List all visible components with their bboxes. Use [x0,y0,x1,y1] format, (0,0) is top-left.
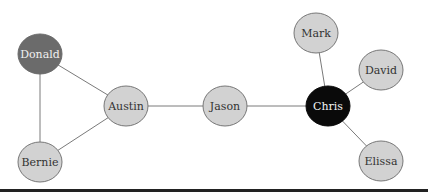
node-label: Donald [20,48,60,61]
node-label: Austin [107,100,144,113]
baseline-rule [0,189,428,192]
node-label: Jason [209,100,240,113]
node-label: Elissa [365,155,398,168]
node-label: Bernie [22,156,59,169]
node-mark: Mark [294,13,338,53]
node-label: Chris [313,100,343,113]
node-bernie: Bernie [18,142,62,182]
node-chris: Chris [306,86,350,126]
node-label: David [365,64,397,77]
nodes-layer: DonaldAustinBernieJasonChrisMarkDavidEli… [18,13,403,182]
node-label: Mark [301,27,331,40]
node-elissa: Elissa [359,141,403,181]
node-david: David [359,50,403,90]
node-austin: Austin [104,86,148,126]
node-jason: Jason [203,86,247,126]
network-graph: DonaldAustinBernieJasonChrisMarkDavidEli… [0,0,429,195]
node-donald: Donald [18,34,62,74]
